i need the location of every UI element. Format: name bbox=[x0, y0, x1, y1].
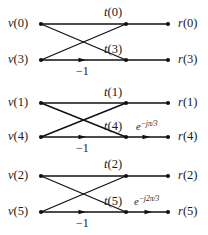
middle-node-label: t(1) bbox=[104, 86, 122, 99]
input-node-label: v(3) bbox=[8, 53, 28, 66]
input-node-dot bbox=[39, 174, 43, 178]
middle-node-label: t(3) bbox=[104, 43, 122, 56]
twiddle-factor-label: e−j2π/3 bbox=[134, 197, 159, 208]
output-node-label: r(5) bbox=[178, 205, 197, 218]
output-node-dot bbox=[166, 58, 170, 62]
output-node-label: r(0) bbox=[178, 17, 197, 30]
output-node-dot bbox=[166, 101, 170, 105]
middle-node-dot bbox=[124, 22, 128, 26]
twiddle-arrow bbox=[143, 135, 151, 139]
output-node-dot bbox=[166, 135, 170, 139]
node-index: (1) bbox=[107, 85, 122, 99]
gain-arrow-minus-one bbox=[79, 135, 87, 139]
output-node-label: r(4) bbox=[178, 130, 197, 143]
twiddle-exponent: −jπ/3 bbox=[141, 119, 158, 128]
middle-node-dot bbox=[124, 58, 128, 62]
input-node-dot bbox=[39, 58, 43, 62]
input-node-dot bbox=[39, 101, 43, 105]
twiddle-arrow bbox=[145, 210, 153, 214]
gain-arrow-minus-one bbox=[79, 210, 87, 214]
node-index: (5) bbox=[107, 194, 122, 208]
output-node-label: r(2) bbox=[178, 169, 197, 182]
input-node-label: v(4) bbox=[8, 130, 28, 143]
node-index: (4) bbox=[183, 129, 198, 143]
twiddle-exponent: −j2π/3 bbox=[139, 194, 160, 203]
input-node-dot bbox=[39, 22, 43, 26]
butterfly-diagram: v(0)v(3)t(0)t(3)r(0)r(3)−1v(1)v(4)t(1)t(… bbox=[0, 0, 208, 235]
input-node-dot bbox=[39, 210, 43, 214]
middle-node-dot bbox=[124, 101, 128, 105]
gain-label-minus-one: −1 bbox=[76, 142, 89, 154]
node-index: (4) bbox=[107, 119, 122, 133]
node-index: (0) bbox=[183, 16, 198, 30]
node-index: (1) bbox=[14, 95, 29, 109]
node-index: (0) bbox=[107, 5, 122, 19]
input-node-label: v(2) bbox=[8, 169, 28, 182]
output-node-dot bbox=[166, 174, 170, 178]
node-index: (3) bbox=[183, 52, 198, 66]
middle-node-dot bbox=[124, 135, 128, 139]
node-index: (1) bbox=[183, 95, 198, 109]
node-index: (0) bbox=[14, 16, 29, 30]
node-index: (3) bbox=[14, 52, 29, 66]
middle-node-dot bbox=[124, 210, 128, 214]
node-index: (2) bbox=[183, 168, 198, 182]
node-index: (5) bbox=[14, 204, 29, 218]
middle-node-label: t(2) bbox=[104, 158, 122, 171]
middle-node-label: t(4) bbox=[104, 120, 122, 133]
node-index: (4) bbox=[14, 129, 29, 143]
output-node-dot bbox=[166, 210, 170, 214]
output-node-label: r(3) bbox=[178, 53, 197, 66]
output-node-label: r(1) bbox=[178, 96, 197, 109]
input-node-dot bbox=[39, 135, 43, 139]
gain-arrow-minus-one bbox=[79, 58, 87, 62]
input-node-label: v(1) bbox=[8, 96, 28, 109]
middle-node-dot bbox=[124, 174, 128, 178]
middle-node-label: t(0) bbox=[104, 6, 122, 19]
input-node-label: v(0) bbox=[8, 17, 28, 30]
output-node-dot bbox=[166, 22, 170, 26]
node-index: (5) bbox=[183, 204, 198, 218]
node-index: (2) bbox=[14, 168, 29, 182]
middle-node-label: t(5) bbox=[104, 195, 122, 208]
node-index: (2) bbox=[107, 157, 122, 171]
gain-label-minus-one: −1 bbox=[76, 217, 89, 229]
node-index: (3) bbox=[107, 42, 122, 56]
twiddle-factor-label: e−jπ/3 bbox=[136, 122, 158, 133]
gain-label-minus-one: −1 bbox=[76, 65, 89, 77]
input-node-label: v(5) bbox=[8, 205, 28, 218]
